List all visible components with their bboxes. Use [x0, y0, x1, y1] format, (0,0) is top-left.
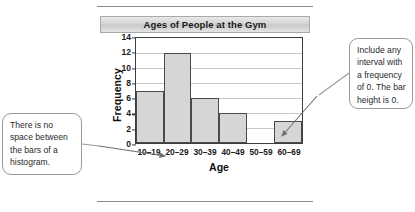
x-tick-label: 30–39 [191, 147, 219, 157]
chart-plot-area: Frequency 0 2 4 6 8 10 12 14 [97, 37, 313, 197]
y-tick-label: 6 [113, 93, 131, 103]
bar-slot [274, 38, 302, 143]
x-tick-label: 20–29 [163, 147, 191, 157]
figure-panel: Ages of People at the Gym Frequency 0 2 … [97, 6, 313, 202]
x-tick-label: 40–49 [219, 147, 247, 157]
callout-left: There is no space between the bars of a … [2, 113, 82, 175]
leader-line-right-stub [319, 73, 349, 95]
bar-slot [136, 38, 164, 143]
histogram-bars [136, 38, 302, 143]
plot-box [135, 37, 303, 144]
bar-slot [191, 38, 219, 143]
y-tick-label: 2 [113, 124, 131, 134]
x-axis-title: Age [135, 161, 303, 173]
callout-right: Include any interval with a frequency of… [349, 38, 413, 109]
callout-right-text: Include any interval with a frequency of… [357, 45, 406, 105]
y-tick-label: 8 [113, 78, 131, 88]
bar-slot [164, 38, 192, 143]
y-tick-label: 4 [113, 108, 131, 118]
bar-slot [247, 38, 275, 143]
y-tick-label: 0 [113, 139, 131, 149]
bar-slot [219, 38, 247, 143]
y-tick-label: 10 [113, 63, 131, 73]
x-axis-tick-labels: 10–19 20–29 30–39 40–49 50–59 60–69 [135, 147, 303, 157]
callout-left-text: There is no space between the bars of a … [10, 120, 68, 167]
x-tick-label: 10–19 [135, 147, 163, 157]
x-tick-label: 50–59 [247, 147, 275, 157]
y-tick-mark [132, 144, 136, 145]
y-tick-label: 14 [113, 32, 131, 42]
histogram-bar [219, 113, 247, 143]
y-tick-label: 12 [113, 47, 131, 57]
x-tick-label: 60–69 [275, 147, 303, 157]
histogram-bar [191, 98, 219, 143]
histogram-bar [274, 121, 302, 144]
y-axis-tick-labels: 0 2 4 6 8 10 12 14 [113, 37, 131, 144]
chart-title: Ages of People at the Gym [144, 19, 267, 30]
histogram-bar [136, 91, 164, 144]
chart-title-banner: Ages of People at the Gym [100, 16, 310, 33]
histogram-bar [164, 53, 192, 143]
